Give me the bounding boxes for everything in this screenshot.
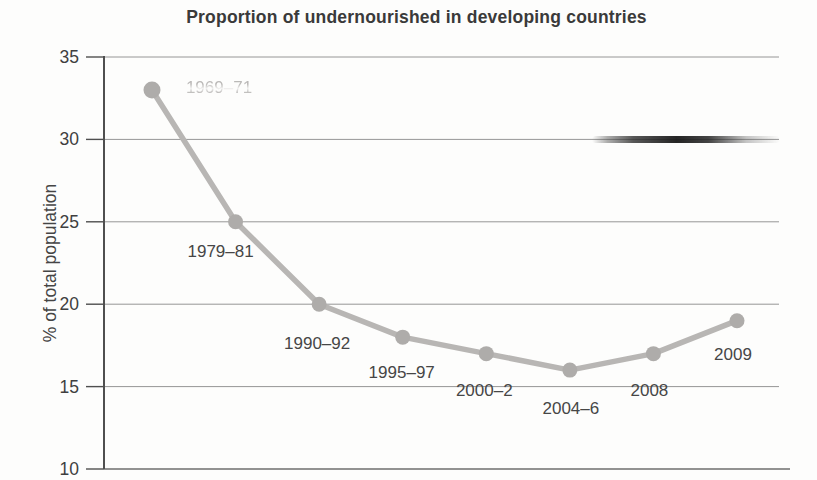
data-point-marker	[312, 297, 327, 312]
print-smudge-artifact	[592, 136, 780, 143]
data-point-label: 1995–97	[369, 364, 435, 382]
data-point-marker	[730, 313, 745, 328]
y-tick-label: 35	[29, 47, 79, 67]
line-chart-plot	[0, 0, 817, 480]
y-tick-label: 10	[29, 459, 79, 479]
data-point-marker	[479, 346, 494, 361]
data-point-label: 2009	[714, 346, 752, 364]
data-point-marker	[144, 81, 161, 98]
data-line	[152, 90, 737, 370]
data-point-label: 1979–81	[187, 243, 253, 261]
data-point-label: 1969–71	[186, 79, 252, 97]
data-point-label: 1990–92	[284, 335, 350, 353]
chart-figure: Proportion of undernourished in developi…	[0, 0, 817, 480]
data-point-marker	[646, 346, 661, 361]
data-point-marker	[562, 363, 577, 378]
y-tick-label: 20	[29, 294, 79, 314]
data-point-label: 2008	[631, 382, 669, 400]
data-point-marker	[395, 330, 410, 345]
y-tick-label: 25	[29, 212, 79, 232]
y-tick-label: 15	[29, 377, 79, 397]
data-point-label: 2004–6	[542, 400, 599, 418]
y-tick-label: 30	[29, 129, 79, 149]
data-point-marker	[228, 214, 243, 229]
data-point-label: 2000–2	[456, 382, 513, 400]
